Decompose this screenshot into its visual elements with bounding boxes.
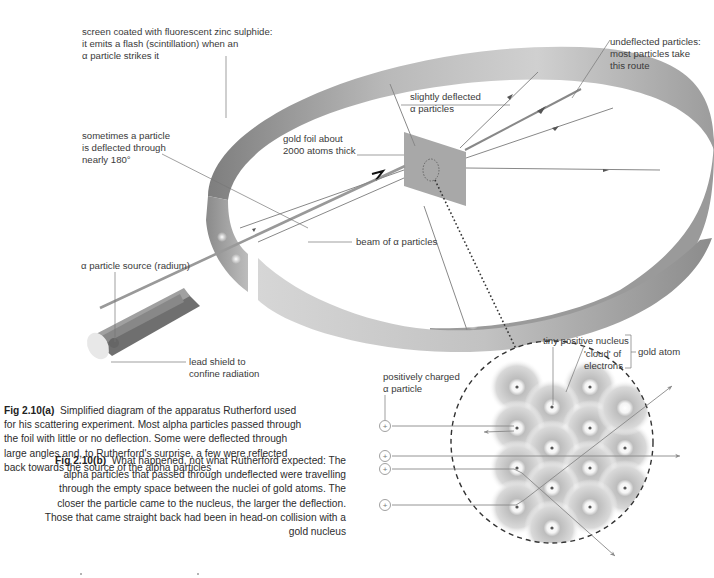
label-undeflected-1: undeflected particles: — [610, 36, 701, 47]
margin-mark — [80, 573, 82, 575]
alpha-particle-icon: + — [380, 421, 391, 432]
label-undeflected-3: this route — [610, 60, 649, 71]
caption-b-text: What happened, not what Rutherford expec… — [45, 455, 346, 537]
label-screen-2: it emits a flash (scintillation) when an — [82, 38, 238, 49]
label-slightly-2: α particles — [410, 103, 454, 114]
margin-mark — [197, 573, 199, 575]
gold-atoms-view — [451, 341, 653, 556]
label-shield-1: lead shield to — [189, 356, 246, 367]
label-cloud-1: 'cloud' of — [584, 348, 622, 359]
alpha-particle-icon: + — [380, 500, 391, 511]
label-source: α particle source (radium) — [81, 260, 190, 271]
screen-ring-front — [258, 238, 712, 352]
radium-source — [83, 288, 200, 363]
caption-b-title: Fig 2.10(b) — [55, 455, 106, 466]
label-alpha-2: α particle — [383, 383, 422, 394]
label-foil-2: 2000 atoms thick — [283, 145, 356, 156]
label-screen-1: screen coated with fluorescent zinc sulp… — [82, 26, 272, 37]
label-backscatter-1: sometimes a particle — [82, 130, 170, 141]
label-beam: beam of α particles — [356, 236, 437, 247]
label-cloud-2: electrons — [584, 360, 623, 371]
label-undeflected-2: most particles take — [610, 48, 690, 59]
label-nucleus: tiny positive nucleus — [543, 335, 629, 346]
label-screen-3: α particle strikes it — [82, 50, 159, 61]
beam-arrow-icon — [372, 171, 383, 180]
alpha-particle-icon: + — [380, 464, 391, 475]
label-foil-1: gold foil about — [283, 133, 343, 144]
svg-text:+: + — [383, 422, 388, 431]
label-shield-2: confine radiation — [189, 368, 259, 379]
label-alpha-1: positively charged — [383, 371, 460, 382]
label-backscatter-3: nearly 180° — [82, 154, 131, 165]
svg-text:+: + — [383, 452, 388, 461]
alpha-particles: + + + + — [380, 421, 391, 511]
caption-fig-b: Fig 2.10(b) What happened, not what Ruth… — [40, 454, 346, 539]
label-gold-atom: gold atom — [638, 346, 680, 357]
alpha-particle-icon: + — [380, 451, 391, 462]
screen-left-panel — [206, 196, 248, 292]
electron-clouds — [489, 359, 653, 556]
label-slightly-1: slightly deflected — [410, 91, 481, 102]
label-backscatter-2: is deflected through — [82, 142, 166, 153]
svg-text:+: + — [383, 501, 388, 510]
svg-text:+: + — [383, 465, 388, 474]
caption-a-title: Fig 2.10(a) — [4, 405, 54, 416]
